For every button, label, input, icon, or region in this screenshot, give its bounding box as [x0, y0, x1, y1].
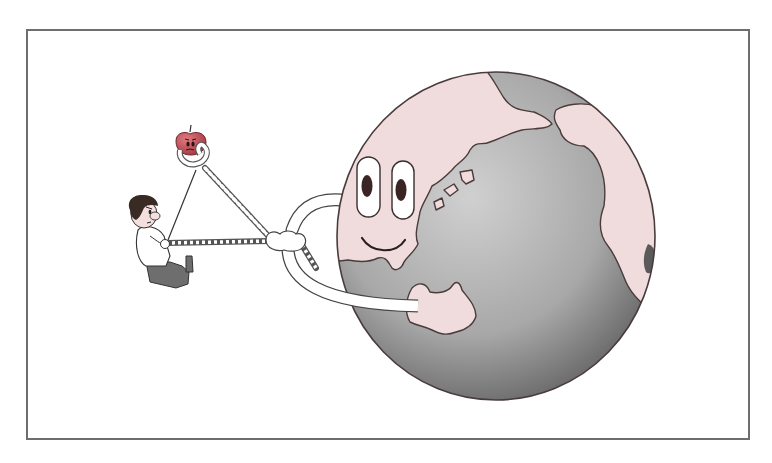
earth-hand	[266, 231, 306, 251]
right-eye	[392, 161, 414, 219]
illustration	[0, 0, 772, 463]
earth-globe	[330, 60, 670, 410]
thin-rope	[168, 170, 196, 240]
rope-tail	[302, 245, 316, 268]
earth-arm-upper	[292, 200, 342, 230]
twisted-rope-upper	[205, 168, 274, 242]
twisted-rope-lower	[166, 241, 272, 243]
left-eye	[357, 157, 380, 217]
